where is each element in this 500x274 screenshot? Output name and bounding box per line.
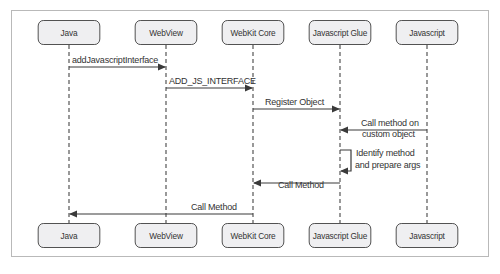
participant-javascript-top: Javascript bbox=[396, 20, 459, 45]
participant-label: Javascript Glue bbox=[313, 231, 367, 241]
message-label-addjavascriptinterface: addJavascriptInterface bbox=[72, 55, 158, 65]
participant-label: Java bbox=[61, 231, 78, 241]
message-label-call-method-1: Call Method bbox=[278, 180, 324, 190]
participant-label: WebView bbox=[149, 28, 182, 38]
participant-webview-bottom: WebView bbox=[135, 223, 198, 248]
participant-label: WebView bbox=[149, 231, 182, 241]
message-label-prepare-args: and prepare args bbox=[355, 160, 420, 170]
message-label-call-method-on: Call method on bbox=[361, 118, 419, 128]
participant-webkit-bottom: WebKit Core bbox=[222, 223, 285, 248]
participant-label: WebKit Core bbox=[231, 231, 276, 241]
participant-javascript-bottom: Javascript bbox=[396, 223, 459, 248]
participant-java-top: Java bbox=[38, 20, 101, 45]
participant-glue-bottom: Javascript Glue bbox=[309, 223, 372, 248]
message-label-call-method-2: Call Method bbox=[191, 202, 237, 212]
participant-label: Java bbox=[61, 28, 78, 38]
message-label-custom-object: custom object bbox=[362, 129, 415, 139]
arrow-identify-method bbox=[340, 150, 351, 171]
participant-webkit-top: WebKit Core bbox=[222, 20, 285, 45]
message-label-register-object: Register Object bbox=[265, 97, 324, 107]
participant-label: Javascript Glue bbox=[313, 28, 367, 38]
participant-label: Javascript bbox=[409, 231, 444, 241]
participant-java-bottom: Java bbox=[38, 223, 101, 248]
participant-label: Javascript bbox=[409, 28, 444, 38]
participant-webview-top: WebView bbox=[135, 20, 198, 45]
participant-label: WebKit Core bbox=[231, 28, 276, 38]
participant-glue-top: Javascript Glue bbox=[309, 20, 372, 45]
message-label-add-js-interface: ADD_JS_INTERFACE bbox=[169, 76, 256, 86]
message-label-identify-method: Identify method bbox=[356, 148, 415, 158]
